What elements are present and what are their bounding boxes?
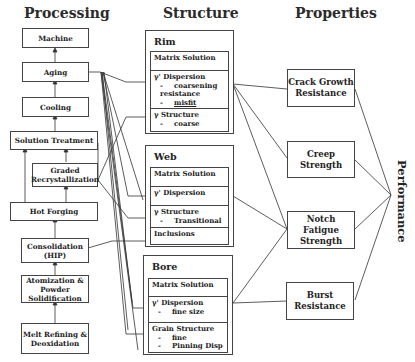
cell-item: -coarsening resistance [154, 82, 225, 99]
process-step-hot-forging: Hot Forging [10, 202, 98, 221]
cell-matrix-solution: Matrix Solution [151, 52, 228, 70]
property-creep-strength: Creep Strength [287, 141, 355, 178]
process-step-atomization: Atomization & Powder Solidification [21, 275, 89, 303]
property-crack-growth-resistance: Crack Growth Resistance [287, 69, 355, 107]
web-cells: Matrix Solution γ' Dispersion γ Structur… [150, 167, 229, 245]
bullet: - [158, 308, 172, 317]
structure-header: Structure [163, 5, 239, 21]
bullet: - [158, 342, 172, 351]
cell-matrix-solution: Matrix Solution [149, 279, 227, 296]
process-step-cooling: Cooling [22, 97, 89, 117]
processing-header: Processing [24, 5, 110, 21]
item-text: Transitional [174, 216, 221, 225]
bullet: - [160, 120, 174, 129]
cell-gamma-prime-dispersion: γ' Dispersion [151, 186, 228, 205]
cell-item: -coarse [154, 120, 225, 129]
cell-gamma-structure: γ Structure -coarse [151, 108, 228, 132]
group-title: Web [154, 151, 177, 162]
item-text: fine size [172, 307, 204, 316]
performance-label: Performance [395, 160, 409, 243]
group-title: Rim [154, 36, 176, 47]
process-step-aging: Aging [22, 62, 89, 82]
cell-item: -Pinning Disp [152, 342, 224, 351]
structure-group-web: Web Matrix Solution γ' Dispersion γ Stru… [145, 145, 234, 247]
cell-item: -fine size [152, 308, 224, 317]
structure-group-bore: Bore Matrix Solution γ' Dispersion -fine… [143, 255, 233, 355]
cell-title: Matrix Solution [154, 169, 216, 178]
process-step-solution-treatment: Solution Treatment [10, 131, 98, 150]
cell-matrix-solution: Matrix Solution [151, 168, 228, 186]
process-step-consolidation: Consolidation (HIP) [21, 238, 89, 263]
process-step-melt-refining: Melt Refining & Deoxidation [21, 323, 89, 354]
group-title: Bore [152, 261, 177, 272]
bore-cells: Matrix Solution γ' Dispersion -fine size… [148, 278, 228, 353]
process-step-graded-recrystallization: Graded Recrystallization [32, 163, 98, 187]
bullet: - [160, 217, 174, 226]
properties-header: Properties [295, 5, 377, 21]
cell-title: Matrix Solution [152, 280, 214, 289]
cell-gamma-prime-dispersion: γ' Dispersion -fine size [149, 296, 227, 322]
cell-title: γ' Dispersion [154, 188, 205, 197]
cell-item: -misfit [154, 99, 225, 108]
property-notch-fatigue-strength: Notch Fatigue Strength [287, 211, 355, 249]
item-text: misfit [174, 98, 196, 107]
cell-grain-structure: Grain Structure -fine -Pinning Disp [149, 322, 227, 353]
cell-gamma-structure: γ Structure -Transitional [151, 205, 228, 227]
cell-item: -Transitional [154, 217, 225, 226]
item-text: coarse [174, 119, 200, 128]
cell-gamma-prime-dispersion: γ' Dispersion -coarsening resistance -mi… [151, 70, 228, 108]
item-text: Pinning Disp [172, 341, 223, 350]
rim-cells: Matrix Solution γ' Dispersion -coarsenin… [150, 51, 229, 132]
cell-inclusions: Inclusions [151, 227, 228, 245]
bullet: - [160, 99, 174, 108]
cell-title: Inclusions [154, 229, 195, 238]
property-burst-resistance: Burst Resistance [286, 282, 354, 320]
structure-group-rim: Rim Matrix Solution γ' Dispersion -coars… [145, 30, 234, 134]
cell-title: Matrix Solution [154, 53, 216, 62]
materials-design-diagram: Processing Structure Properties Performa… [0, 0, 415, 362]
process-step-machine: Machine [22, 28, 89, 48]
